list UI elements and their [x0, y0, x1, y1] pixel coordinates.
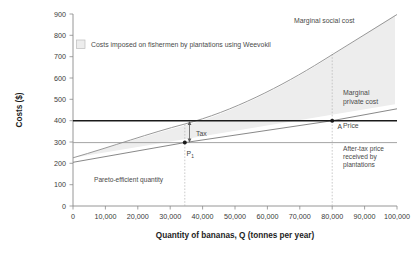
- point-p1-subscript: 1: [191, 154, 194, 159]
- legend-label: Costs imposed on fishermen by plantation…: [91, 41, 271, 49]
- x-tick-label-0: 0: [71, 212, 75, 221]
- x-axis-title: Quantity of bananas, Q (tonnes per year): [156, 231, 315, 240]
- y-tick-label-400: 400: [54, 116, 66, 125]
- chart-svg: 0 100 200 300 400 500 600 700 800 900 0 …: [0, 0, 411, 254]
- price-label: Price: [343, 122, 359, 129]
- after-tax-label-line1: After-tax price: [343, 145, 384, 153]
- y-tick-label-500: 500: [54, 95, 66, 104]
- y-tick-label-0: 0: [62, 202, 66, 211]
- y-tick-label-100: 100: [54, 180, 66, 189]
- x-tick-label-20000: 20,000: [127, 212, 149, 221]
- after-tax-label-line2: received by: [343, 153, 377, 161]
- y-tick-label-600: 600: [54, 74, 66, 83]
- x-tick-label-40000: 40,000: [192, 212, 214, 221]
- y-tick-label-700: 700: [54, 52, 66, 61]
- x-tick-label-50000: 50,000: [224, 212, 246, 221]
- y-tick-label-900: 900: [54, 10, 66, 19]
- y-tick-label-300: 300: [54, 138, 66, 147]
- x-tick-label-10000: 10,000: [94, 212, 116, 221]
- pareto-efficient-quantity-label: Pareto-efficient quantity: [94, 176, 164, 184]
- x-tick-label-30000: 30,000: [159, 212, 181, 221]
- marker-point-a: [330, 119, 334, 123]
- x-tick-label-80000: 80,000: [321, 212, 343, 221]
- x-tick-label-90000: 90,000: [354, 212, 376, 221]
- legend-swatch: [77, 40, 86, 49]
- marginal-private-cost-label-line1: Marginal: [343, 89, 370, 97]
- y-axis-title: Costs ($): [15, 92, 24, 127]
- x-tick-label-100000: 100,000: [384, 212, 410, 221]
- x-tick-label-60000: 60,000: [256, 212, 278, 221]
- point-a-label: A: [338, 123, 343, 130]
- y-tick-label-200: 200: [54, 159, 66, 168]
- after-tax-label-line3: plantations: [343, 161, 376, 169]
- marginal-private-cost-label-line2: private cost: [343, 98, 378, 106]
- y-tick-label-800: 800: [54, 31, 66, 40]
- x-tick-label-70000: 70,000: [289, 212, 311, 221]
- tax-label: Tax: [196, 130, 207, 137]
- marker-point-p1: [183, 141, 187, 145]
- externality-chart: 0 100 200 300 400 500 600 700 800 900 0 …: [0, 0, 411, 254]
- marginal-social-cost-label: Marginal social cost: [294, 17, 355, 25]
